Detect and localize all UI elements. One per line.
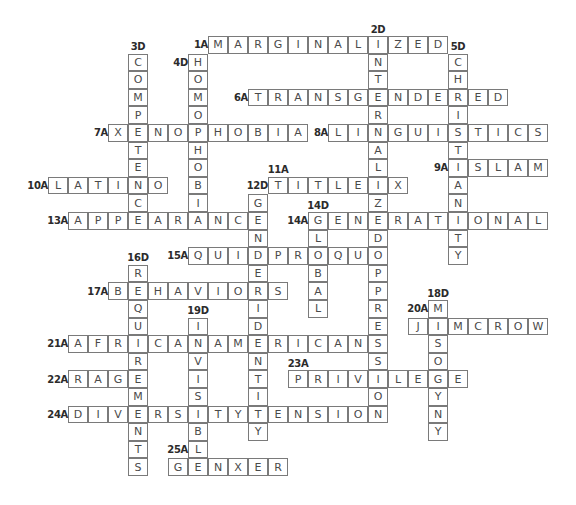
crossword-cell[interactable]: A [68, 212, 88, 230]
crossword-cell[interactable]: N [128, 423, 148, 441]
crossword-cell[interactable]: R [128, 353, 148, 371]
crossword-cell[interactable]: I [188, 194, 208, 212]
crossword-cell[interactable]: L [188, 441, 208, 459]
crossword-cell[interactable]: E [428, 89, 448, 107]
crossword-cell[interactable]: N [428, 406, 448, 424]
crossword-cell[interactable]: I [368, 370, 388, 388]
crossword-cell[interactable]: A [188, 212, 208, 230]
crossword-cell[interactable]: G [348, 89, 368, 107]
crossword-cell[interactable]: I [188, 370, 208, 388]
crossword-cell[interactable]: I [328, 406, 348, 424]
crossword-cell[interactable]: Q [128, 300, 148, 318]
crossword-cell[interactable]: P [368, 265, 388, 283]
crossword-cell[interactable]: B [308, 265, 328, 283]
crossword-cell[interactable]: N [208, 458, 228, 476]
crossword-cell[interactable]: O [468, 212, 488, 230]
crossword-cell[interactable]: E [248, 265, 268, 283]
crossword-cell[interactable]: S [128, 458, 148, 476]
crossword-cell[interactable]: O [188, 71, 208, 89]
crossword-cell[interactable]: E [368, 212, 388, 230]
crossword-cell[interactable]: N [148, 124, 168, 142]
crossword-cell[interactable]: A [208, 335, 228, 353]
crossword-cell[interactable]: R [308, 370, 328, 388]
crossword-cell[interactable]: L [328, 124, 348, 142]
crossword-cell[interactable]: C [308, 335, 328, 353]
crossword-cell[interactable]: N [308, 89, 328, 107]
crossword-cell[interactable]: Y [228, 406, 248, 424]
crossword-cell[interactable]: M [448, 318, 468, 336]
crossword-cell[interactable]: G [248, 194, 268, 212]
crossword-cell[interactable]: L [308, 230, 328, 248]
crossword-cell[interactable]: N [368, 124, 388, 142]
crossword-cell[interactable]: R [388, 212, 408, 230]
crossword-cell[interactable]: R [368, 106, 388, 124]
crossword-cell[interactable]: N [348, 212, 368, 230]
crossword-cell[interactable]: M [128, 89, 148, 107]
crossword-cell[interactable]: T [248, 406, 268, 424]
crossword-cell[interactable]: N [308, 36, 328, 54]
crossword-cell[interactable]: I [328, 370, 348, 388]
crossword-cell[interactable]: R [168, 212, 188, 230]
crossword-cell[interactable]: S [468, 159, 488, 177]
crossword-cell[interactable]: T [128, 441, 148, 459]
crossword-cell[interactable]: E [468, 89, 488, 107]
crossword-cell[interactable]: T [88, 177, 108, 195]
crossword-cell[interactable]: O [508, 318, 528, 336]
crossword-cell[interactable]: A [308, 282, 328, 300]
crossword-cell[interactable]: I [488, 124, 508, 142]
crossword-cell[interactable]: E [128, 282, 148, 300]
crossword-cell[interactable]: T [248, 370, 268, 388]
crossword-cell[interactable]: G [308, 212, 328, 230]
crossword-cell[interactable]: M [428, 300, 448, 318]
crossword-cell[interactable]: N [368, 54, 388, 72]
crossword-cell[interactable]: A [508, 159, 528, 177]
crossword-cell[interactable]: M [208, 36, 228, 54]
crossword-cell[interactable]: R [268, 458, 288, 476]
crossword-cell[interactable]: O [228, 124, 248, 142]
crossword-cell[interactable]: W [528, 318, 548, 336]
crossword-cell[interactable]: A [68, 335, 88, 353]
crossword-cell[interactable]: R [368, 300, 388, 318]
crossword-cell[interactable]: I [288, 177, 308, 195]
crossword-cell[interactable]: O [368, 388, 388, 406]
crossword-cell[interactable]: R [108, 335, 128, 353]
crossword-cell[interactable]: O [228, 282, 248, 300]
crossword-cell[interactable]: T [428, 212, 448, 230]
crossword-cell[interactable]: I [348, 124, 368, 142]
crossword-cell[interactable]: R [128, 265, 148, 283]
crossword-cell[interactable]: O [428, 353, 448, 371]
crossword-cell[interactable]: C [148, 335, 168, 353]
crossword-cell[interactable]: A [448, 177, 468, 195]
crossword-cell[interactable]: Y [448, 247, 468, 265]
crossword-cell[interactable]: O [348, 406, 368, 424]
crossword-cell[interactable]: T [268, 177, 288, 195]
crossword-cell[interactable]: D [248, 318, 268, 336]
crossword-cell[interactable]: I [228, 247, 248, 265]
crossword-cell[interactable]: V [188, 282, 208, 300]
crossword-cell[interactable]: X [388, 177, 408, 195]
crossword-cell[interactable]: A [368, 142, 388, 160]
crossword-cell[interactable]: I [368, 177, 388, 195]
crossword-cell[interactable]: A [148, 212, 168, 230]
crossword-cell[interactable]: E [408, 370, 428, 388]
crossword-cell[interactable]: E [268, 406, 288, 424]
crossword-cell[interactable]: N [188, 335, 208, 353]
crossword-cell[interactable]: R [288, 247, 308, 265]
crossword-cell[interactable]: O [128, 71, 148, 89]
crossword-cell[interactable]: I [248, 388, 268, 406]
crossword-cell[interactable]: N [288, 406, 308, 424]
crossword-cell[interactable]: I [288, 335, 308, 353]
crossword-cell[interactable]: A [328, 335, 348, 353]
crossword-cell[interactable]: I [428, 124, 448, 142]
crossword-cell[interactable]: I [368, 36, 388, 54]
crossword-cell[interactable]: O [188, 106, 208, 124]
crossword-cell[interactable]: O [188, 159, 208, 177]
crossword-cell[interactable]: B [108, 282, 128, 300]
crossword-cell[interactable]: E [368, 318, 388, 336]
crossword-cell[interactable]: C [128, 54, 148, 72]
crossword-cell[interactable]: L [368, 159, 388, 177]
crossword-cell[interactable]: M [528, 159, 548, 177]
crossword-cell[interactable]: R [268, 89, 288, 107]
crossword-cell[interactable]: S [168, 406, 188, 424]
crossword-cell[interactable]: E [348, 177, 368, 195]
